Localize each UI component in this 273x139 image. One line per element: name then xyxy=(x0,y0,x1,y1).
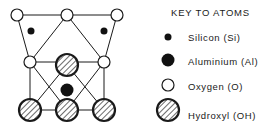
aluminium-key-icon xyxy=(162,54,175,67)
silicon-atom-icon xyxy=(101,28,108,35)
oxygen-atom-icon xyxy=(24,56,36,68)
oxygen-atom-icon xyxy=(98,56,110,68)
key-title: KEY TO ATOMS xyxy=(171,7,250,18)
hydroxyl-group-icon xyxy=(56,54,78,76)
oxygen-atom-icon xyxy=(11,9,23,21)
hydroxyl-group-icon xyxy=(56,99,78,121)
key-label-oxygen: Oxygen (O) xyxy=(188,81,243,92)
key-label-silicon: Silicon (Si) xyxy=(188,32,241,43)
hydroxyl-group-icon xyxy=(19,99,41,121)
hydroxyl-group-icon xyxy=(93,99,115,121)
silicon-key-icon xyxy=(165,34,172,41)
oxygen-atom-icon xyxy=(61,9,73,21)
key-label-hydroxyl: Hydroxyl (OH) xyxy=(188,110,256,121)
aluminium-atom-icon xyxy=(61,84,74,97)
oxygen-key-icon xyxy=(162,79,174,91)
key-label-aluminium: Aluminium (Al) xyxy=(188,56,258,67)
silicon-atoms xyxy=(28,28,108,35)
key-symbols xyxy=(157,34,179,122)
oxygen-atom-icon xyxy=(111,9,123,21)
hydroxyl-key-icon xyxy=(157,99,179,121)
silicon-atom-icon xyxy=(28,28,35,35)
